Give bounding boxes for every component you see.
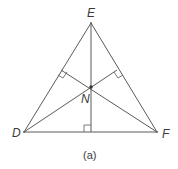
label-N: N	[81, 92, 90, 106]
right-angle-mark-DF	[84, 125, 91, 132]
side-ED	[24, 23, 91, 132]
altitude-from-F	[61, 70, 157, 132]
label-D: D	[12, 126, 21, 140]
point-D	[23, 131, 25, 133]
label-E: E	[87, 6, 96, 20]
caption: (a)	[83, 149, 96, 161]
point-N	[89, 85, 93, 89]
triangle-diagram: E D F N (a)	[0, 0, 178, 169]
altitude-from-D	[24, 70, 117, 132]
label-F: F	[162, 127, 170, 141]
point-E	[90, 22, 92, 24]
point-F	[156, 131, 158, 133]
side-EF	[91, 23, 157, 132]
